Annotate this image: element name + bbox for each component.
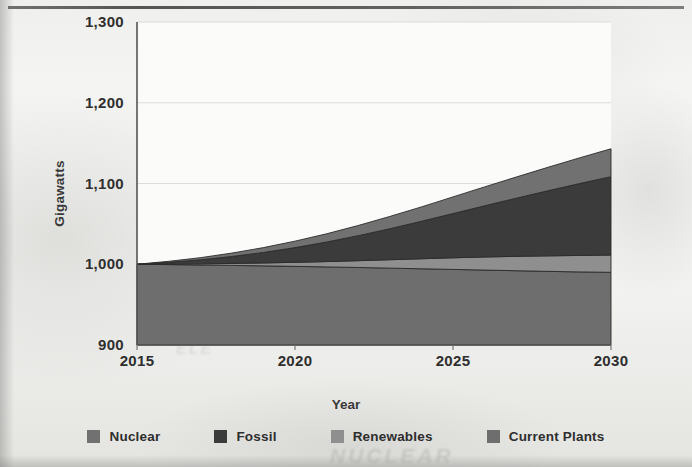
legend-swatch-icon	[331, 430, 344, 443]
plot-area: Gigawatts 1,3001,2001,1001,000900 201520…	[0, 0, 692, 467]
y-tick-label: 900	[46, 336, 124, 353]
y-tick-label: 1,000	[46, 255, 124, 272]
x-tick-label: 2015	[92, 352, 182, 369]
legend-label: Current Plants	[509, 429, 605, 444]
chart-figure: ~13% NUCLEAR ELE Gigawatts 1,3001,2001,1…	[0, 0, 692, 467]
y-tick-label: 1,100	[46, 175, 124, 192]
x-tick-label: 2030	[566, 352, 656, 369]
y-axis-title: Gigawatts	[52, 129, 67, 259]
x-tick-label: 2025	[408, 352, 498, 369]
legend-swatch-icon	[214, 430, 227, 443]
legend-item-nuclear: Nuclear	[87, 429, 160, 444]
x-axis-title: Year	[0, 397, 692, 412]
x-tick-label: 2020	[250, 352, 340, 369]
legend-swatch-icon	[87, 430, 100, 443]
chart-legend: NuclearFossilRenewablesCurrent Plants	[0, 424, 692, 448]
legend-swatch-icon	[487, 430, 500, 443]
legend-item-fossil: Fossil	[214, 429, 276, 444]
legend-label: Nuclear	[109, 429, 160, 444]
area-series-current-plants	[137, 264, 611, 345]
legend-item-current-plants: Current Plants	[487, 429, 605, 444]
legend-item-renewables: Renewables	[331, 429, 433, 444]
legend-label: Renewables	[353, 429, 433, 444]
legend-label: Fossil	[236, 429, 276, 444]
y-tick-label: 1,300	[46, 13, 124, 30]
y-tick-label: 1,200	[46, 94, 124, 111]
